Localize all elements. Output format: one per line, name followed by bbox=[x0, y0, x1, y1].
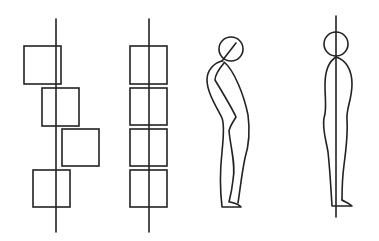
stooped-figure-front-outline bbox=[224, 62, 249, 203]
misaligned-block bbox=[62, 129, 99, 166]
misaligned-blocks-panel bbox=[24, 19, 99, 232]
misaligned-block bbox=[42, 88, 79, 126]
stooped-figure-back-outline bbox=[207, 61, 241, 207]
diagram-svg bbox=[0, 0, 379, 241]
posture-diagram bbox=[0, 0, 379, 241]
stooped-figure-neck-line bbox=[222, 43, 236, 61]
stooped-figure-inner-arm-outline bbox=[215, 63, 236, 202]
misaligned-block bbox=[33, 170, 70, 207]
stooped-figure bbox=[207, 37, 249, 207]
upright-figure-front-outline bbox=[336, 57, 352, 200]
aligned-blocks-panel bbox=[130, 19, 167, 232]
upright-figure bbox=[323, 16, 352, 217]
